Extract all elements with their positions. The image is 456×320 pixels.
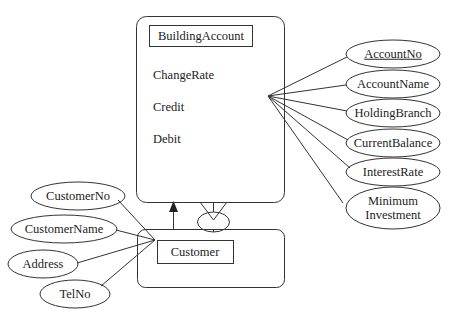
customer-title: Customer [171, 246, 220, 259]
building-account-title: BuildingAccount [158, 30, 244, 43]
operation-debit: Debit [153, 133, 181, 146]
attr-customername: CustomerName [25, 223, 103, 236]
attr-telno: TelNo [59, 288, 90, 301]
relationship-crows-foot [200, 202, 227, 232]
er-diagram: BuildingAccount ChangeRate Credit Debit … [0, 0, 456, 320]
customer-attribute-links [77, 200, 155, 286]
attr-holdingbranch: HoldingBranch [354, 107, 431, 120]
attr-accountno: AccountNo [364, 48, 422, 61]
operation-changerate: ChangeRate [153, 69, 214, 82]
attr-currentbalance: CurrentBalance [354, 137, 432, 150]
attr-address: Address [23, 258, 64, 271]
attr-customerno: CustomerNo [46, 190, 110, 203]
building-account-attribute-links [268, 57, 350, 203]
attr-minimum-investment-line1: Minimum [368, 195, 418, 208]
attr-minimum-investment-line2: Investment [365, 209, 421, 222]
attr-interestrate: InterestRate [363, 166, 423, 179]
operation-credit: Credit [153, 101, 184, 114]
attr-accountname: AccountName [357, 78, 429, 91]
